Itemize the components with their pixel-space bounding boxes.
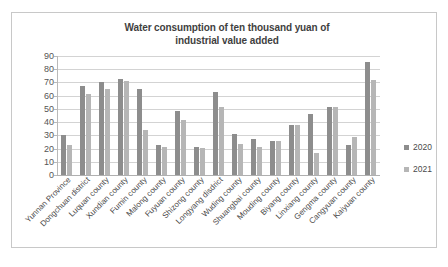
bar-2020[interactable] xyxy=(289,125,294,175)
bar-2021[interactable] xyxy=(314,153,319,175)
chart-frame: Water consumption of ten thousand yuan o… xyxy=(11,12,437,248)
chart-title-line-1: Water consumption of ten thousand yuan o… xyxy=(72,21,382,34)
bar-group[interactable] xyxy=(270,56,281,175)
legend-swatch-icon xyxy=(404,167,409,172)
bar-2020[interactable] xyxy=(61,135,66,175)
bar-2020[interactable] xyxy=(213,92,218,175)
bar-2020[interactable] xyxy=(175,111,180,175)
bar-group[interactable] xyxy=(118,56,129,175)
y-tick-label: 30 xyxy=(44,131,54,140)
bar-2021[interactable] xyxy=(200,148,205,175)
legend-label: 2020 xyxy=(413,143,432,152)
bar-series-container xyxy=(57,56,380,175)
bar-group[interactable] xyxy=(137,56,148,175)
bar-2021[interactable] xyxy=(371,80,376,175)
bar-2021[interactable] xyxy=(143,130,148,175)
bar-2021[interactable] xyxy=(352,137,357,175)
chart-title: Water consumption of ten thousand yuan o… xyxy=(72,21,382,47)
bar-group[interactable] xyxy=(61,56,72,175)
bar-2020[interactable] xyxy=(251,139,256,175)
x-axis-tick-labels: Yunnan ProvinceDongchuan districtLuquan … xyxy=(57,176,448,267)
bar-2020[interactable] xyxy=(194,147,199,175)
bar-2021[interactable] xyxy=(181,120,186,175)
y-tick-label: 70 xyxy=(44,78,54,87)
bar-group[interactable] xyxy=(308,56,319,175)
bar-2021[interactable] xyxy=(105,89,110,175)
bar-2020[interactable] xyxy=(232,134,237,175)
y-tick-label: 40 xyxy=(44,118,54,127)
bar-2021[interactable] xyxy=(238,144,243,175)
bar-group[interactable] xyxy=(194,56,205,175)
bar-2021[interactable] xyxy=(333,107,338,175)
y-tick-label: 10 xyxy=(44,157,54,166)
bar-2020[interactable] xyxy=(99,82,104,175)
y-tick-label: 90 xyxy=(44,52,54,61)
bar-group[interactable] xyxy=(346,56,357,175)
bar-2020[interactable] xyxy=(80,86,85,175)
bar-group[interactable] xyxy=(289,56,300,175)
legend-label: 2021 xyxy=(413,165,432,174)
legend-item-2021[interactable]: 2021 xyxy=(404,165,448,174)
plot-area xyxy=(57,56,380,175)
bar-2020[interactable] xyxy=(346,145,351,175)
bar-2020[interactable] xyxy=(327,107,332,175)
bar-2021[interactable] xyxy=(67,145,72,175)
bar-2021[interactable] xyxy=(276,141,281,175)
bar-group[interactable] xyxy=(99,56,110,175)
bar-group[interactable] xyxy=(327,56,338,175)
y-tick-label: 60 xyxy=(44,91,54,100)
bar-2021[interactable] xyxy=(257,147,262,175)
legend-item-2020[interactable]: 2020 xyxy=(404,143,448,152)
bar-2021[interactable] xyxy=(86,94,91,175)
bar-2021[interactable] xyxy=(219,107,224,175)
bar-2021[interactable] xyxy=(162,147,167,175)
y-tick-label: 50 xyxy=(44,104,54,113)
bar-group[interactable] xyxy=(213,56,224,175)
chart-legend: 20202021 xyxy=(404,143,448,187)
bar-2020[interactable] xyxy=(156,145,161,175)
bar-2021[interactable] xyxy=(295,125,300,175)
bar-group[interactable] xyxy=(175,56,186,175)
bar-group[interactable] xyxy=(80,56,91,175)
bar-2020[interactable] xyxy=(365,62,370,175)
bar-group[interactable] xyxy=(365,56,376,175)
legend-swatch-icon xyxy=(404,145,409,150)
bar-2020[interactable] xyxy=(137,89,142,175)
bar-group[interactable] xyxy=(232,56,243,175)
bar-group[interactable] xyxy=(251,56,262,175)
bar-2020[interactable] xyxy=(270,141,275,175)
bar-2020[interactable] xyxy=(308,114,313,175)
y-tick-label: 20 xyxy=(44,144,54,153)
chart-title-line-2: industrial value added xyxy=(72,34,382,47)
bar-group[interactable] xyxy=(156,56,167,175)
bar-2020[interactable] xyxy=(118,79,123,175)
y-axis-tick-labels: 9080706050403020100 xyxy=(30,56,54,175)
bar-2021[interactable] xyxy=(124,81,129,175)
y-tick-label: 80 xyxy=(44,65,54,74)
